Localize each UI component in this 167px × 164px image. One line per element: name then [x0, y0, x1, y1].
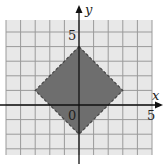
x-tick-label: 5	[147, 108, 155, 123]
coordinate-plane: x y 0 5 5	[0, 0, 167, 164]
y-axis-arrow-icon	[76, 5, 83, 13]
origin-label: 0	[68, 108, 76, 123]
y-tick-label: 5	[68, 28, 76, 43]
x-axis-label: x	[152, 88, 160, 103]
y-axis-label: y	[84, 2, 93, 17]
